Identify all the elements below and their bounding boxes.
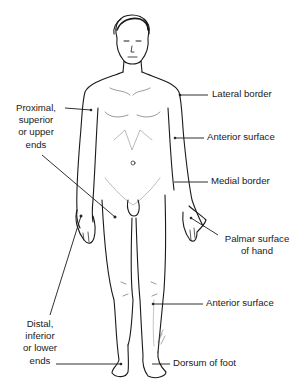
left-leg-outer <box>102 200 128 377</box>
leader-distal-hand <box>50 216 81 315</box>
label-dorsum-of-foot: Dorsum of foot <box>173 357 236 369</box>
anatomy-diagram: Lateral border Anterior surface Medial b… <box>0 0 307 389</box>
label-lateral-border: Lateral border <box>212 88 272 100</box>
leader-proximal-arm <box>65 108 91 110</box>
label-distal: Distal, inferior or lower ends <box>18 318 62 367</box>
label-anterior-surface-leg: Anterior surface <box>206 297 274 309</box>
right-hand <box>183 206 206 241</box>
label-proximal: Proximal, superior or upper ends <box>8 102 64 151</box>
leader-palmar-surface <box>191 218 218 235</box>
label-medial-border: Medial border <box>211 175 270 187</box>
label-palmar-surface: Palmar surface of hand <box>217 233 297 257</box>
right-leg-inner <box>136 218 166 378</box>
left-leg-inner <box>128 218 133 345</box>
right-leg-outer <box>158 195 166 352</box>
label-anterior-surface-arm: Anterior surface <box>207 131 275 143</box>
